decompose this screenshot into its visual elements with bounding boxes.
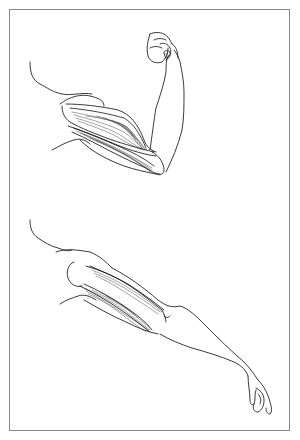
extended-arm-drawing bbox=[30, 220, 272, 414]
anatomical-illustration bbox=[0, 0, 300, 440]
flexed-arm-drawing bbox=[30, 33, 184, 175]
